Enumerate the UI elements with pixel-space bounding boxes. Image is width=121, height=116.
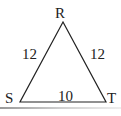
vertex-label-s: S [5,90,13,106]
vertex-label-r: R [55,5,65,21]
vertex-label-t: T [107,90,116,106]
side-label-rs: 12 [22,46,37,62]
triangle-diagram: R S T 12 12 10 [0,0,121,116]
bottom-rule [0,107,121,109]
side-label-rt: 12 [90,46,105,62]
side-label-st: 10 [58,88,73,104]
